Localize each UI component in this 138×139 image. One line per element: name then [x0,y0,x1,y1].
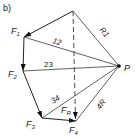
vector-f1 [24,11,73,37]
label-f3: F3 [26,119,36,130]
vector-f2 [23,37,24,71]
ray-34 [42,66,119,118]
ray-r1 [73,11,119,66]
ray-12 [24,37,119,66]
label-f1: F1 [11,26,20,37]
panel-label: b) [3,3,11,13]
vector-f4 [42,118,76,121]
force-polygon-diagram: b) F1 F2 F3 F4 FR P R1 12 23 34 4R [0,0,138,139]
vector-f3 [23,71,42,118]
label-ray-23: 23 [44,60,53,69]
ray-4r [76,66,119,121]
label-fr: FR [61,105,72,116]
label-f2: F2 [8,69,18,80]
pole-point [117,64,121,68]
label-f4: F4 [69,125,79,136]
ray-23 [23,66,119,71]
label-ray-r1: R1 [97,26,110,40]
label-ray-4r: 4R [94,97,108,111]
label-pole: P [124,63,130,73]
label-ray-34: 34 [49,93,62,106]
resultant-line [73,11,76,119]
